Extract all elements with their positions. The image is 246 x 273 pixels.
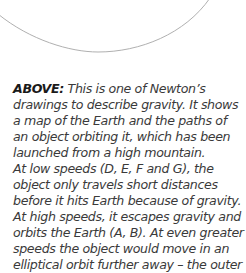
caption-line-7: object only travels short distances xyxy=(13,177,228,193)
figure-caption: ABOVE: This is one of Newton’s drawings … xyxy=(13,81,228,273)
caption-line-11: speeds the object would move in an xyxy=(13,241,228,257)
caption-line-10: orbits the Earth (A, B). At even greater xyxy=(13,225,228,241)
caption-line-6: At low speeds (D, E, F and G), the xyxy=(13,161,228,177)
caption-line-12: elliptical orbit further away – the oute… xyxy=(13,257,228,273)
caption-line-9: At high speeds, it escapes gravity and xyxy=(13,209,228,225)
earth-outline-arc xyxy=(0,0,221,80)
caption-line-4: an object orbiting it, which has been xyxy=(13,129,228,145)
caption-line-8: before it hits Earth because of gravity. xyxy=(13,193,228,209)
caption-line-1: ABOVE: This is one of Newton’s xyxy=(13,81,228,97)
caption-line-3: a map of the Earth and the paths of xyxy=(13,113,228,129)
caption-line-2: drawings to describe gravity. It shows xyxy=(13,97,228,113)
caption-label: ABOVE: xyxy=(13,81,64,96)
newton-gravity-figure xyxy=(0,0,221,80)
caption-line-5: launched from a high mountain. xyxy=(13,145,228,161)
